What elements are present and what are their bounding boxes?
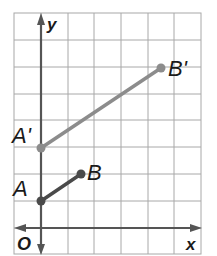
y-axis-down-arrow-icon: [37, 244, 45, 255]
y-axis-up-arrow-icon: [37, 13, 45, 25]
point-b-prime: [157, 64, 166, 73]
origin-label: O: [17, 234, 31, 254]
point-a-prime: [37, 144, 46, 153]
y-axis-label: y: [46, 15, 58, 34]
label-b: B: [87, 160, 102, 185]
coordinate-plane-figure: y x O A B A' B': [0, 0, 217, 256]
point-a: [37, 197, 46, 206]
x-axis-right-arrow-icon: [190, 224, 202, 232]
label-b-prime: B': [168, 56, 188, 81]
point-b: [77, 170, 86, 179]
label-a: A: [11, 176, 28, 201]
segment-ab: [37, 170, 86, 206]
segment-a-prime-b-prime: [37, 64, 166, 153]
x-axis-left-arrow-icon: [14, 224, 26, 232]
x-axis-label: x: [185, 235, 197, 254]
label-a-prime: A': [10, 123, 32, 148]
